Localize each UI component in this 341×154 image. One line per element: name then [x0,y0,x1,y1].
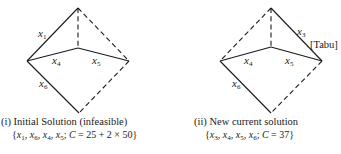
label-x3: x3 [296,25,306,39]
caption-title: (ii) New current solution [194,115,298,128]
edge-x5 [78,48,129,61]
tabu-annotation: [Tabu] [310,39,338,50]
edge-x6 [27,61,79,113]
label-x5: x5 [91,54,101,68]
label-x4: x4 [243,54,253,68]
caption-new-solution: (ii) New current solution {x3, x4, x5, x… [194,115,298,145]
edge-x6 [220,61,271,113]
label-x6: x6 [231,77,241,91]
label-x5: x5 [284,54,294,68]
caption-formula: {x1, x6, x4, x5; C = 25 + 2 × 50} [1,128,137,145]
edge-right-bottom [271,61,322,113]
label-x6: x6 [38,77,48,91]
edge-top-right [78,8,129,61]
caption-initial-solution: (i) Initial Solution (infeasible) {x1, x… [1,115,137,145]
label-x4: x4 [51,54,61,68]
caption-title: (i) Initial Solution (infeasible) [1,115,137,128]
edge-right-bottom [79,61,129,113]
graph-initial-solution: x1 x4 x5 x6 [27,8,129,113]
graph-new-solution: x3 [Tabu] x4 x5 x6 [220,8,338,113]
caption-formula: {x3, x4, x5, x6; C = 37} [194,128,298,145]
label-x1: x1 [37,27,47,41]
